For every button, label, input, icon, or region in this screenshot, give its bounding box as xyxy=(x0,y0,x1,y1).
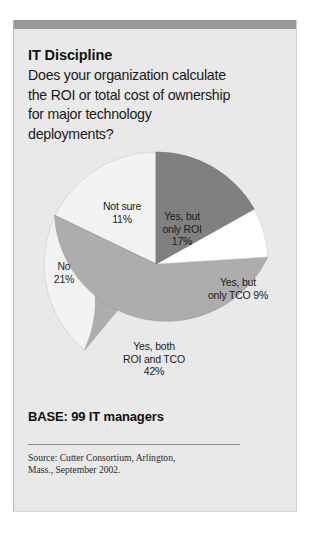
pie-label-not-sure: Not sure 11% xyxy=(88,200,156,225)
pie-label-yes-only-tco: Yes, but only TCO 9% xyxy=(190,276,286,301)
pie-label-yes-both-line-1: Yes, both xyxy=(133,340,175,352)
question-line-1: Does your organization calculate xyxy=(28,66,284,86)
survey-card: IT Discipline Does your organization cal… xyxy=(13,20,297,512)
pie-label-no: No 21% xyxy=(42,260,86,285)
question-line-4: deployments? xyxy=(28,125,284,145)
page-root: IT Discipline Does your organization cal… xyxy=(0,0,309,533)
question-line-2: the ROI or total cost of ownership xyxy=(28,86,284,106)
footer-divider xyxy=(28,444,240,445)
pie-label-not-sure-value: 11% xyxy=(112,213,132,225)
source-line-1: Source: Cutter Consortium, Arlington, xyxy=(28,452,278,464)
pie-label-yes-both-value: 42% xyxy=(144,365,164,377)
pie-label-no-value: 21% xyxy=(54,273,74,285)
pie-label-not-sure-line-1: Not sure xyxy=(103,200,141,212)
base-label: BASE: 99 IT managers xyxy=(28,409,164,424)
pie-label-yes-both-line-2: ROI and TCO xyxy=(123,353,185,365)
source-line-2: Mass., September 2002. xyxy=(28,464,278,476)
pie-label-yes-only-tco-line-2: only TCO 9% xyxy=(208,289,268,301)
pie-label-yes-only-roi-line-2: only ROI xyxy=(162,223,201,235)
card-top-band xyxy=(14,20,297,29)
pie-chart: Yes, but only ROI 17% Yes, but only TCO … xyxy=(14,148,297,383)
card-header: IT Discipline Does your organization cal… xyxy=(28,46,284,144)
question-line-3: for major technology xyxy=(28,105,284,125)
pie-label-yes-only-roi-value: 17% xyxy=(172,235,192,247)
pie-label-yes-only-roi-line-1: Yes, but xyxy=(164,210,200,222)
pie-label-no-line-1: No xyxy=(57,260,70,272)
pie-label-yes-only-tco-line-1: Yes, but xyxy=(220,276,256,288)
survey-question: Does your organization calculate the ROI… xyxy=(28,66,284,144)
source-note: Source: Cutter Consortium, Arlington, Ma… xyxy=(28,452,278,476)
page-title: IT Discipline xyxy=(28,46,284,65)
pie-label-yes-both: Yes, both ROI and TCO 42% xyxy=(100,340,208,378)
